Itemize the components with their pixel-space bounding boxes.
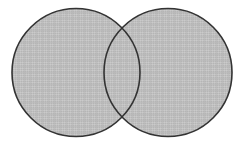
venn-diagram-figure (0, 0, 245, 145)
venn-diagram-canvas (0, 0, 245, 145)
venn-circles-group (12, 9, 232, 137)
